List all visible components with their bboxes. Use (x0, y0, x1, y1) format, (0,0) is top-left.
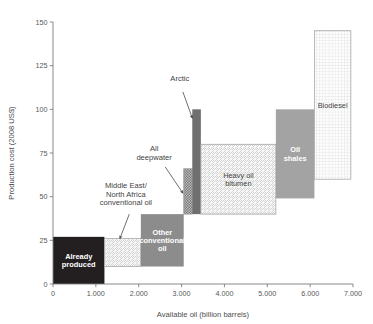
middle-east-north-africa-callout-arrow-icon (120, 214, 129, 238)
box-label-other-conventional-oil: oil (158, 244, 167, 253)
box-label-oil-shales: shales (284, 154, 307, 163)
y-tick-label: 0 (44, 280, 48, 289)
resource-box-arctic (192, 109, 201, 214)
middle-east-north-africa-callout-text: conventional oil (100, 198, 153, 207)
box-label-heavy-oil-bitumen: bitumen (225, 179, 251, 188)
y-tick-label: 50 (40, 192, 48, 201)
arctic-callout-text: Arctic (170, 74, 189, 83)
y-tick-label: 150 (36, 18, 48, 27)
all-deepwater-callout-text: deepwater (136, 153, 172, 162)
y-tick-label: 25 (40, 236, 48, 245)
resource-box-all-deepwater (184, 169, 193, 214)
x-axis-title: Available oil (billion barrels) (157, 310, 250, 319)
arctic-callout-arrow-icon (183, 92, 192, 118)
x-tick-label: 4.000 (215, 289, 233, 298)
box-label-already-produced: produced (62, 260, 96, 269)
y-axis-title: Production cost (2008 US$) (7, 106, 16, 200)
x-tick-label: 3.000 (173, 289, 191, 298)
x-tick-label: 0 (51, 289, 55, 298)
annotation-group: Middle East/North Africaconventional oil… (100, 74, 193, 238)
x-tick-label: 1.000 (87, 289, 105, 298)
x-tick-label: 6.000 (301, 289, 319, 298)
chart-svg: 01.0002.0003.0004.0005.0006.0007.0000255… (0, 0, 373, 324)
x-tick-label: 5.000 (258, 289, 276, 298)
oil-supply-cost-curve-chart: 01.0002.0003.0004.0005.0006.0007.0000255… (0, 0, 373, 324)
all-deepwater-callout-arrow-icon (165, 167, 183, 193)
y-tick-label: 100 (36, 105, 48, 114)
y-tick-label: 75 (40, 149, 48, 158)
y-tick-label: 125 (36, 61, 48, 70)
box-label-biodiesel: Biodiesel (318, 101, 348, 110)
x-tick-label: 7.000 (344, 289, 362, 298)
x-tick-label: 2.000 (130, 289, 148, 298)
resource-box-middle-east-north-africa-conventional-oil (104, 239, 140, 267)
